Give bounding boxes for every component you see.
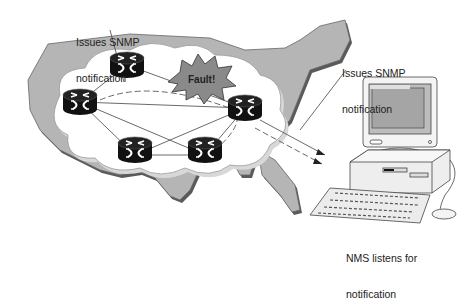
svg-text:Fault!: Fault! bbox=[188, 74, 215, 85]
nms-callout-label: NMS listens for notification bbox=[346, 228, 417, 302]
router-icon bbox=[118, 137, 152, 163]
router-callout-label: Issues SNMP notification bbox=[76, 12, 140, 108]
router-icon bbox=[188, 137, 222, 163]
router-icon bbox=[228, 95, 262, 121]
edge-router-callout-label: Issues SNMP notification bbox=[342, 43, 406, 139]
